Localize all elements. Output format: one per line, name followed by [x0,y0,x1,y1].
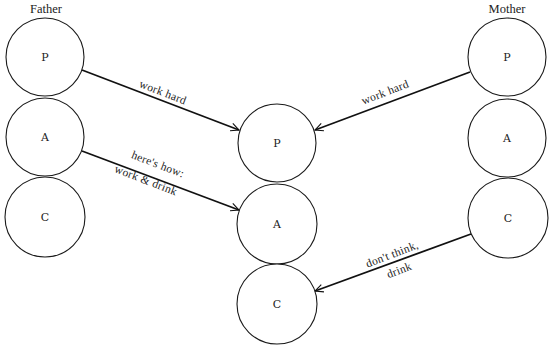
edge-label: work hard [138,78,189,107]
script-matrix-diagram: Father Mother work hardhere's how:work &… [0,0,551,351]
ego-state-node-mother-C: C [468,178,548,258]
arrow-line [82,70,239,130]
edge-mother-P-to-child-P: work hard [315,72,470,131]
node-label: P [273,137,281,150]
group-titles: Father Mother [30,2,526,16]
node-label: P [503,51,511,64]
ego-state-node-father-C: C [5,177,85,257]
edge-label: work hard [360,78,411,107]
node-label: A [502,132,512,145]
mother-title: Mother [489,2,527,16]
node-label: C [504,212,512,225]
node-label: P [41,51,49,64]
edge-mother-C-to-child-C: don't think,drink [315,234,471,292]
edge-label: drink [385,260,413,280]
node-label: C [273,298,281,311]
node-label: A [272,218,282,231]
nodes: PACPACPAC [5,18,548,344]
ego-state-node-mother-A: A [468,99,546,177]
node-label: C [41,211,49,224]
arrow-line [315,72,470,130]
ego-state-node-mother-P: P [468,18,546,96]
ego-state-node-father-A: A [6,98,84,176]
ego-state-node-child-C: C [237,264,317,344]
ego-state-node-father-P: P [6,18,84,96]
arrow-line [315,234,471,291]
ego-state-node-child-A: A [237,184,317,264]
father-title: Father [30,2,63,16]
edge-father-A-to-child-A: here's how:work & drink [82,148,239,210]
ego-state-node-child-P: P [238,104,316,182]
node-label: A [40,131,50,144]
edge-father-P-to-child-P: work hard [82,70,239,131]
